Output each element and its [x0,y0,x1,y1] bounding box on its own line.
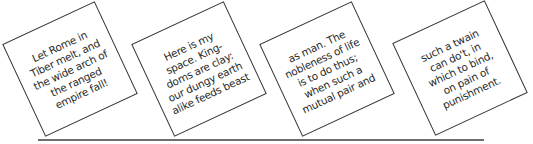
card-text: Here is my space. King- doms are clay: o… [148,23,252,117]
text-card-1: Let Rome in Tiber melt, and the wide arc… [2,1,138,137]
text-card-2: Here is my space. King- doms are clay: o… [131,1,267,137]
text-card-4: such a twain can do't, in which to bind,… [392,0,528,136]
baseline-rule [38,139,484,141]
card-text: Let Rome in Tiber melt, and the wide arc… [20,24,120,117]
tilted-cards-illustration: Let Rome in Tiber melt, and the wide arc… [0,0,533,144]
card-text: as man. The nobleness of life is to do t… [277,23,378,116]
card-text: such a twain can do't, in which to bind,… [415,25,506,113]
text-card-3: as man. The nobleness of life is to do t… [259,1,395,137]
